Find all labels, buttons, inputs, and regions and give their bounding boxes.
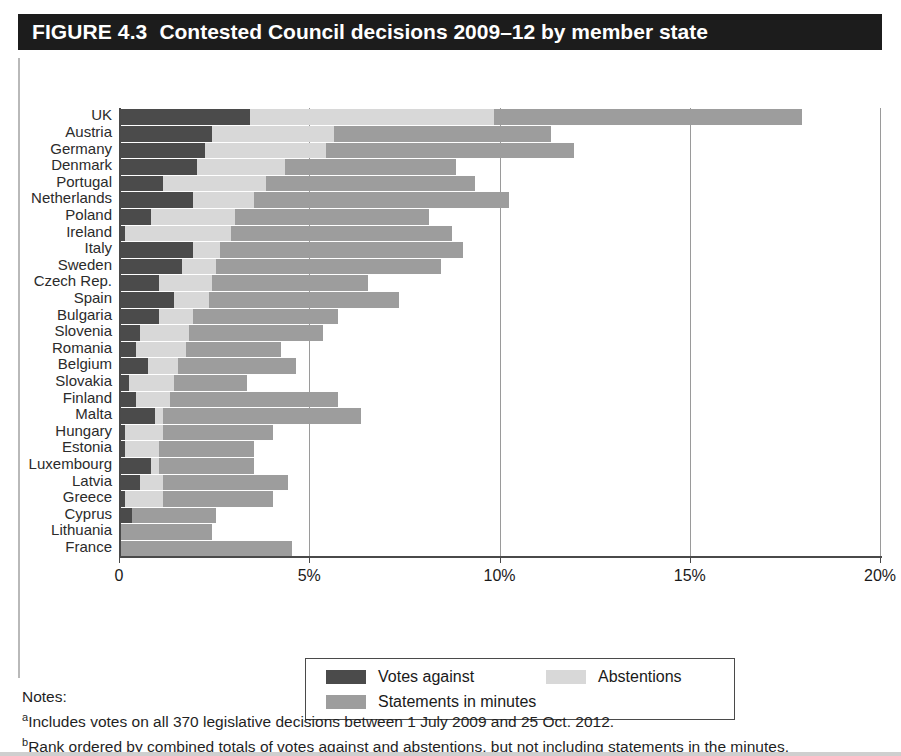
bar-segment-statements [132, 508, 216, 524]
x-tick-label-10%: 10% [483, 567, 515, 585]
category-label-france: France [65, 539, 112, 555]
bar-segment-votes [121, 126, 212, 142]
category-label-finland: Finland [63, 390, 112, 406]
bar-row: UK [119, 109, 880, 125]
category-label-malta: Malta [75, 406, 112, 422]
bar-segment-abstain [193, 242, 220, 258]
bar-segment-votes [121, 508, 132, 524]
figure-title-bar: FIGURE 4.3 Contested Council decisions 2… [18, 14, 882, 50]
category-label-uk: UK [91, 107, 112, 123]
gridline-20% [880, 108, 881, 556]
bar-segment-abstain [125, 491, 163, 507]
bar-row: Luxembourg [119, 458, 880, 474]
bar-segment-votes [121, 309, 159, 325]
category-label-slovenia: Slovenia [54, 323, 112, 339]
bar-segment-votes [121, 192, 193, 208]
bar-segment-votes [121, 176, 163, 192]
bar-segment-abstain [155, 408, 163, 424]
legend-label-abstentions: Abstentions [598, 668, 682, 686]
bar-segment-abstain [148, 358, 178, 374]
figure-page: FIGURE 4.3 Contested Council decisions 2… [0, 0, 901, 756]
legend-item-votes-against: Votes against [326, 668, 474, 686]
bar-row: Slovakia [119, 375, 880, 391]
bar-segment-abstain [129, 375, 175, 391]
chart-plot-area: 05%10%15%20%UKAustriaGermanyDenmarkPortu… [119, 108, 880, 553]
bar-segment-statements [334, 126, 551, 142]
bar-segment-votes [121, 143, 205, 159]
bar-row: Bulgaria [119, 309, 880, 325]
bar-segment-votes [121, 375, 129, 391]
bar-segment-statements [266, 176, 475, 192]
bar-segment-votes [121, 342, 136, 358]
bar-segment-abstain [159, 309, 193, 325]
category-label-ireland: Ireland [66, 224, 112, 240]
legend-item-abstentions: Abstentions [546, 668, 682, 686]
bar-segment-abstain [125, 226, 232, 242]
bar-row: Malta [119, 408, 880, 424]
bar-row: Sweden [119, 259, 880, 275]
x-tick-label-5%: 5% [298, 567, 321, 585]
bar-segment-statements [186, 342, 281, 358]
bar-segment-statements [193, 309, 338, 325]
x-tick-15% [690, 556, 691, 563]
bar-segment-votes [121, 292, 174, 308]
bar-segment-abstain [250, 109, 494, 125]
bar-segment-abstain [205, 143, 327, 159]
bar-row: Finland [119, 392, 880, 408]
category-label-lithuania: Lithuania [51, 522, 112, 538]
bar-row: Poland [119, 209, 880, 225]
bar-segment-statements [326, 143, 573, 159]
bar-segment-abstain [174, 292, 208, 308]
bar-row: France [119, 541, 880, 557]
bar-segment-statements [235, 209, 429, 225]
x-tick-20% [880, 556, 881, 563]
bar-row: Netherlands [119, 192, 880, 208]
bar-segment-statements [163, 491, 273, 507]
bar-segment-statements [216, 259, 440, 275]
bar-segment-abstain [193, 192, 254, 208]
category-label-latvia: Latvia [72, 473, 112, 489]
bar-row: Denmark [119, 159, 880, 175]
bar-segment-statements [174, 375, 246, 391]
category-label-greece: Greece [63, 489, 112, 505]
page-bottom-rule [0, 752, 901, 756]
bar-segment-abstain [159, 275, 212, 291]
bar-segment-statements [170, 392, 337, 408]
x-tick-label-20%: 20% [864, 567, 896, 585]
bar-row: Germany [119, 143, 880, 159]
bar-segment-statements [159, 458, 254, 474]
category-label-denmark: Denmark [51, 157, 112, 173]
bar-segment-votes [121, 392, 136, 408]
category-label-czech-rep: Czech Rep. [34, 273, 112, 289]
x-tick-0 [119, 556, 120, 563]
bar-segment-statements [494, 109, 802, 125]
bar-segment-statements [189, 325, 322, 341]
bar-segment-statements [212, 275, 368, 291]
bar-row: Spain [119, 292, 880, 308]
figure-title: Contested Council decisions 2009–12 by m… [159, 20, 708, 44]
bar-segment-statements [121, 524, 212, 540]
bar-segment-votes [121, 159, 197, 175]
bar-segment-votes [121, 475, 140, 491]
bar-row: Ireland [119, 226, 880, 242]
bar-segment-votes [121, 275, 159, 291]
bar-row: Hungary [119, 425, 880, 441]
bar-row: Greece [119, 491, 880, 507]
x-tick-label-0: 0 [115, 567, 124, 585]
category-label-cyprus: Cyprus [64, 506, 112, 522]
category-label-sweden: Sweden [58, 257, 112, 273]
bar-segment-statements [209, 292, 399, 308]
bar-row: Estonia [119, 441, 880, 457]
category-label-poland: Poland [65, 207, 112, 223]
bar-segment-votes [121, 259, 182, 275]
bar-segment-statements [220, 242, 464, 258]
bar-segment-statements [254, 192, 509, 208]
bar-row: Lithuania [119, 524, 880, 540]
figure-notes: Notes: aIncludes votes on all 370 legisl… [22, 686, 882, 756]
category-label-portugal: Portugal [56, 174, 112, 190]
bar-row: Portugal [119, 176, 880, 192]
category-label-austria: Austria [65, 124, 112, 140]
bar-segment-votes [121, 109, 250, 125]
category-label-bulgaria: Bulgaria [57, 307, 112, 323]
bar-segment-abstain [197, 159, 285, 175]
